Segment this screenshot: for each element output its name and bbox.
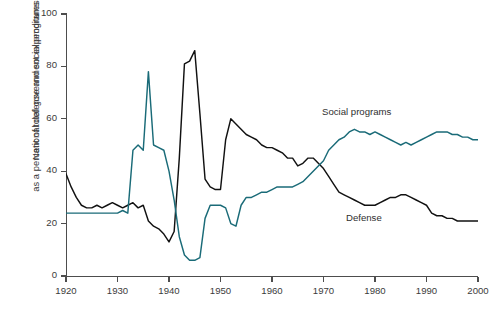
y-tick-label-20: 20: [27, 217, 57, 228]
y-tick-label-80: 80: [27, 59, 57, 70]
x-tick-1960: [271, 277, 272, 282]
y-axis-title-line-2: as a percent of total government expendi…: [30, 0, 43, 191]
x-tick-1920: [65, 277, 66, 282]
x-tick-label-1990: 1990: [407, 285, 447, 296]
y-tick-label-40: 40: [27, 164, 57, 175]
x-tick-label-1940: 1940: [149, 285, 189, 296]
x-tick-label-1930: 1930: [98, 285, 138, 296]
social-programs-line: [66, 72, 478, 261]
y-tick-label-100: 100: [27, 7, 57, 18]
x-tick-label-1920: 1920: [46, 285, 86, 296]
x-tick-label-1950: 1950: [201, 285, 241, 296]
series-label-social-programs: Social programs: [322, 106, 391, 117]
plot-area: [66, 14, 478, 276]
x-tick-label-1970: 1970: [304, 285, 344, 296]
x-tick-1970: [323, 277, 324, 282]
x-tick-1940: [168, 277, 169, 282]
x-tick-label-2000: 2000: [458, 285, 493, 296]
x-tick-1990: [426, 277, 427, 282]
x-tick-label-1960: 1960: [252, 285, 292, 296]
y-axis-title-wrapper: National defense and social programs as …: [0, 0, 40, 310]
x-tick-1980: [374, 277, 375, 282]
y-tick-label-60: 60: [27, 112, 57, 123]
series-canvas: [66, 14, 478, 276]
series-label-defense: Defense: [346, 212, 382, 223]
y-tick-label-0: 0: [27, 269, 57, 280]
x-tick-1930: [117, 277, 118, 282]
x-tick-label-1980: 1980: [355, 285, 395, 296]
x-tick-2000: [477, 277, 478, 282]
x-tick-1950: [220, 277, 221, 282]
y-axis-title-second: as a percent of total government expendi…: [18, 0, 54, 216]
